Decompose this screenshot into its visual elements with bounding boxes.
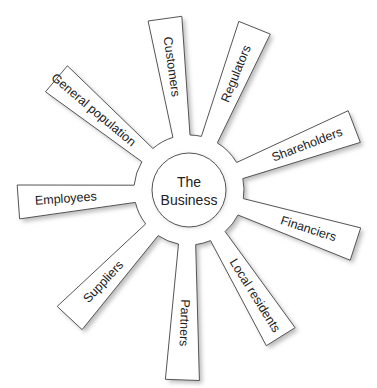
center-circle: The Business — [152, 153, 226, 227]
center-label-line1: The — [177, 174, 201, 190]
stakeholder-label-general-population: General population — [49, 71, 139, 150]
stakeholder-label-partners: Partners — [177, 299, 193, 347]
stakeholder-diagram: CustomersRegulatorsShareholdersFinancier… — [0, 0, 377, 388]
diagram-canvas: CustomersRegulatorsShareholdersFinancier… — [0, 0, 377, 388]
center-label-line2: Business — [161, 192, 218, 208]
